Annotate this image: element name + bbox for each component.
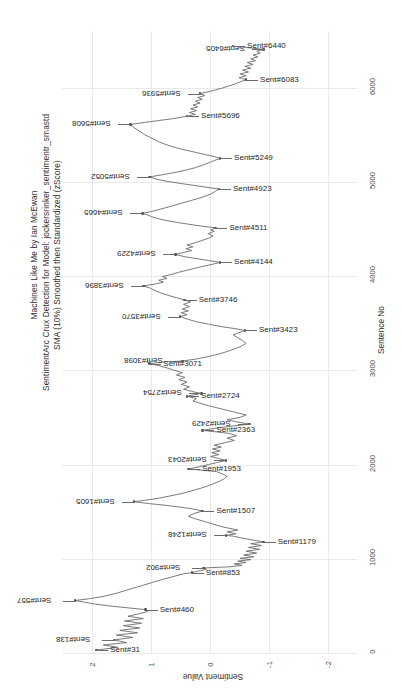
crux-label: Sent#3098 <box>124 356 168 365</box>
crux-label: Sent#3896 <box>85 281 129 290</box>
crux-label: Sent#2754 <box>143 388 187 397</box>
crux-label: Sent#1953 <box>202 464 241 473</box>
crux-leader-line <box>188 469 200 470</box>
crux-label: Sent#6440 <box>247 41 286 50</box>
crux-label: Sent#557 <box>17 596 61 605</box>
x-tick-label: -1 <box>264 655 273 675</box>
chart-figure: Machines Like Me by Ian McEwan Sentiment… <box>0 0 401 689</box>
crux-label: Sent#853 <box>206 568 240 577</box>
crux-leader-line <box>130 213 142 214</box>
crux-label: Sent#5249 <box>234 153 273 162</box>
crux-label: Sent#4229 <box>117 249 161 258</box>
crux-leader-line <box>189 393 201 394</box>
crux-label: Sent#138 <box>56 635 100 644</box>
crux-label: Sent#1248 <box>168 530 212 539</box>
crux-leader-line <box>214 460 226 461</box>
crux-label: Sent#902 <box>146 563 190 572</box>
crux-leader-line <box>146 610 158 611</box>
crux-leader-line <box>245 330 257 331</box>
y-tick-label: 6000 <box>368 74 377 98</box>
crux-label: Sent#5608 <box>72 119 116 128</box>
crux-label: Sent#2043 <box>168 455 212 464</box>
crux-label: Sent#460 <box>160 605 194 614</box>
crux-leader-line <box>96 650 108 651</box>
crux-label: Sent#5052 <box>91 172 135 181</box>
crux-label: Sent#4144 <box>234 257 273 266</box>
crux-label: Sent#4511 <box>229 223 267 232</box>
crux-leader-line <box>185 300 197 301</box>
crux-leader-line <box>220 158 232 159</box>
crux-label: Sent#5936 <box>142 89 186 98</box>
crux-label: Sent#5696 <box>201 111 240 120</box>
x-tick-label: 1 <box>146 655 155 675</box>
crux-leader-line <box>233 46 245 47</box>
crux-leader-line <box>137 177 149 178</box>
crux-leader-line <box>118 124 130 125</box>
crux-label: Sent#1507 <box>216 506 255 515</box>
y-axis-title: Sentence No <box>376 300 386 360</box>
crux-leader-line <box>215 228 227 229</box>
y-tick-label: 3000 <box>368 357 377 381</box>
y-tick-label: 4000 <box>368 263 377 287</box>
crux-leader-line <box>170 361 182 362</box>
crux-label: Sent#3570 <box>122 312 166 321</box>
crux-leader-line <box>219 189 231 190</box>
crux-leader-line <box>246 80 258 81</box>
crux-leader-line <box>102 640 114 641</box>
crux-label: Sent#1605 <box>76 497 120 506</box>
crux-leader-line <box>192 568 204 569</box>
y-tick-label: 0 <box>368 640 377 664</box>
x-tick-label: 2 <box>87 655 96 675</box>
x-tick-label: -2 <box>323 655 332 675</box>
crux-label: Sent#2429 <box>192 419 236 428</box>
crux-leader-line <box>220 262 232 263</box>
crux-leader-line <box>188 94 200 95</box>
title-line-1: Machines Like Me by Ian McEwan <box>29 119 41 391</box>
crux-label: Sent#2724 <box>201 391 240 400</box>
crux-leader-line <box>192 573 204 574</box>
crux-leader-line <box>187 116 199 117</box>
crux-leader-line <box>202 430 214 431</box>
y-tick-label: 1000 <box>368 545 377 569</box>
y-tick-label: 2000 <box>368 451 377 475</box>
crux-leader-line <box>163 254 175 255</box>
y-tick-label: 5000 <box>368 168 377 192</box>
crux-leader-line <box>122 502 134 503</box>
crux-label: Sent#3423 <box>259 325 298 334</box>
crux-leader-line <box>214 535 226 536</box>
crux-label: Sent#4665 <box>84 208 128 217</box>
crux-leader-line <box>202 511 214 512</box>
crux-leader-line <box>264 542 276 543</box>
crux-label: Sent#31 <box>110 645 140 654</box>
crux-label: Sent#1179 <box>278 537 316 546</box>
crux-leader-line <box>168 317 180 318</box>
crux-leader-line <box>187 396 199 397</box>
title-line-2: SentimentArc Crux Detection for Model: j… <box>41 119 53 391</box>
crux-leader-line <box>131 286 143 287</box>
crux-label: Sent#3746 <box>199 295 238 304</box>
crux-label: Sent#6083 <box>260 75 299 84</box>
crux-label: Sent#4923 <box>233 184 272 193</box>
crux-leader-line <box>63 601 75 602</box>
crux-leader-line <box>238 424 250 425</box>
x-tick-label: 0 <box>205 655 214 675</box>
